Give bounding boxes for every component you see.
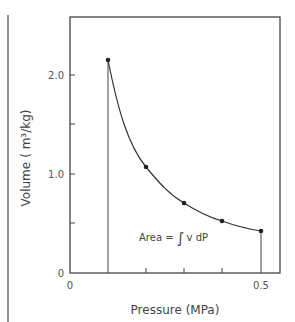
data-point — [220, 219, 225, 224]
data-point — [182, 201, 187, 206]
y-tick-label-1: 1.0 — [48, 169, 64, 180]
x-tick-label-05: 0.5 — [253, 280, 269, 291]
data-points — [106, 58, 264, 234]
y-tick-label-0: 0 — [58, 268, 64, 279]
y-axis-ticks — [70, 75, 75, 223]
data-point — [259, 229, 264, 234]
y-tick-label-2: 2.0 — [48, 70, 64, 81]
data-point — [106, 58, 111, 63]
area-annotation: Area = ∫v dP — [139, 229, 208, 247]
x-axis-ticks — [146, 268, 222, 273]
chart-svg: 2.0 1.0 0 0 0.5 Area = ∫v dP Pressure (M… — [0, 0, 295, 322]
x-tick-label-0: 0 — [67, 280, 73, 291]
x-axis-label: Pressure (MPa) — [131, 303, 220, 317]
data-point — [144, 165, 149, 170]
y-axis-label: Volume( m³/kg) — [19, 110, 33, 207]
volume-pressure-curve — [108, 60, 261, 231]
